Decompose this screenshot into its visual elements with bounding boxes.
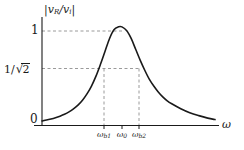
omega-subscript: 0 bbox=[123, 132, 127, 139]
y-tick-label-zero: 0 bbox=[30, 113, 38, 125]
y-tick-label-half-power: 1/√2 bbox=[4, 63, 30, 75]
x-axis-label: ω bbox=[222, 119, 231, 130]
guide-lines bbox=[42, 31, 139, 125]
x-tick-label-center-frequency: ω0 bbox=[117, 130, 127, 139]
x-tick-label-upper-cutoff: ωb2 bbox=[132, 130, 146, 139]
x-tick-label-lower-cutoff: ωb1 bbox=[97, 130, 111, 139]
magnitude-response-curve bbox=[42, 26, 215, 121]
y-tick-label-one: 1 bbox=[31, 24, 39, 36]
omega-subscript: b2 bbox=[138, 132, 146, 139]
omega-subscript: b1 bbox=[103, 132, 111, 139]
frequency-response-figure: |vR/vi| 1 1/√2 0 ω ωb1 ω0 ωb2 bbox=[0, 0, 244, 150]
y-axis-label: |vR/vi| bbox=[44, 4, 75, 16]
